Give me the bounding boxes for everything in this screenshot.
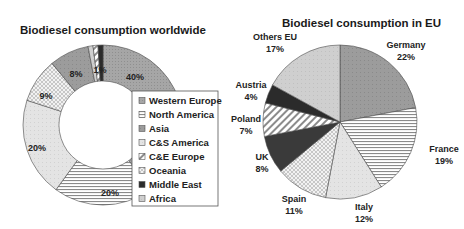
charts-canvas: 40%20%20%9%8%1% Germany22%France19%Italy…: [0, 0, 464, 229]
legend-item-middle-east: Middle East: [149, 179, 203, 190]
value-poland: 7%: [239, 126, 252, 136]
value-western-europe: 40%: [126, 72, 144, 82]
legend-item-asia: Asia: [149, 123, 170, 134]
legend-swatch-north-america: [139, 112, 145, 118]
value-france: 19%: [435, 156, 453, 166]
value-uk: 8%: [255, 164, 268, 174]
legend-swatch-middle-east: [139, 182, 145, 188]
label-france: France: [429, 144, 459, 154]
label-germany: Germany: [386, 40, 425, 50]
value-austria: 4%: [244, 92, 257, 102]
eu-pie-chart: Germany22%France19%Italy12%Spain11%UK8%P…: [231, 32, 459, 224]
legend-item-western-europe: Western Europe: [149, 95, 222, 106]
legend-swatch-oceania: [139, 168, 145, 174]
value-italy: 12%: [355, 214, 373, 224]
label-poland: Poland: [231, 114, 261, 124]
value-north-america: 20%: [101, 188, 119, 198]
legend-swatch-western-europe: [139, 98, 145, 104]
eu-chart-title: Biodiesel consumption in EU: [282, 17, 441, 29]
legend-swatch-asia: [139, 126, 145, 132]
label-italy: Italy: [355, 202, 373, 212]
legend-item-africa: Africa: [149, 193, 177, 204]
legend-item-oceania: Oceania: [149, 165, 187, 176]
legend-swatch-africa: [139, 196, 145, 202]
legend-swatch-c-s-america: [139, 140, 145, 146]
value-c-s-america: 20%: [28, 143, 46, 153]
legend-item-c-s-america: C&S America: [149, 137, 210, 148]
value-others-eu: 17%: [266, 44, 284, 54]
legend-item-c-e-europe: C&E Europe: [149, 151, 204, 162]
label-spain: Spain: [282, 194, 307, 204]
value-c-e-europe: 1%: [93, 65, 106, 75]
legend-swatch-c-e-europe: [139, 154, 145, 160]
value-germany: 22%: [397, 52, 415, 62]
label-austria: Austria: [235, 80, 267, 90]
legend-item-north-america: North America: [149, 109, 215, 120]
label-others-eu: Others EU: [253, 32, 297, 42]
value-oceania: 9%: [39, 91, 52, 101]
label-uk: UK: [256, 152, 269, 162]
worldwide-legend: Western EuropeNorth AmericaAsiaC&S Ameri…: [132, 91, 222, 206]
value-spain: 11%: [285, 206, 303, 216]
value-asia: 8%: [69, 69, 82, 79]
worldwide-chart-title: Biodiesel consumption worldwide: [20, 24, 206, 36]
